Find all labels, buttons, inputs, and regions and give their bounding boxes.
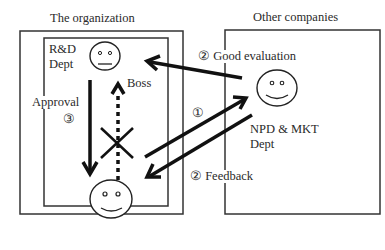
step1-label: ① <box>192 107 204 120</box>
feedback-label: ② Feedback <box>190 170 253 183</box>
npd-label-line1: NPD & MKT <box>250 123 319 136</box>
boss-label: Boss <box>127 77 151 90</box>
npd-face-icon <box>257 70 297 106</box>
approval-label: Approval <box>32 96 79 109</box>
approval-arrow <box>83 80 97 174</box>
subordinate-face-icon <box>90 180 132 218</box>
step3-label: ③ <box>63 113 75 126</box>
boss-face-icon <box>90 42 120 70</box>
good-evaluation-label: ② Good evaluation <box>198 50 296 63</box>
npd-label-line2: Dept <box>250 138 274 151</box>
blocked-dotted-arrow <box>112 84 124 180</box>
rd-label-line2: Dept <box>49 58 73 71</box>
diagram-canvas <box>0 0 385 250</box>
other-companies-title: Other companies <box>253 11 338 24</box>
rd-label-line1: R&D <box>49 43 76 56</box>
organization-title: The organization <box>50 12 135 25</box>
